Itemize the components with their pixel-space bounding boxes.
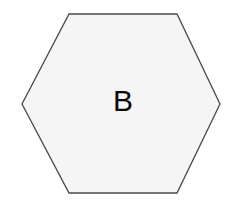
diagram-canvas: B [0, 0, 243, 206]
hexagon-diagram: B [0, 0, 243, 206]
hexagon-label: B [113, 84, 133, 117]
